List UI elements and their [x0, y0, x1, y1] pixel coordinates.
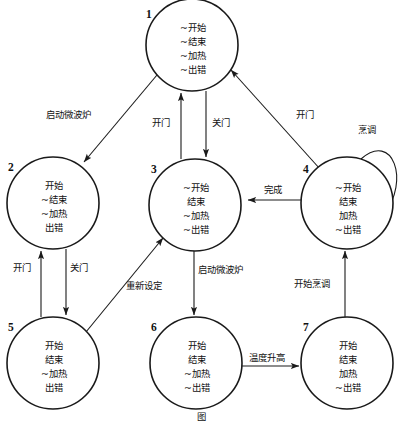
state-6-attr-2: ~加热 — [184, 368, 211, 379]
state-5-attr-0: 开始 — [45, 340, 64, 351]
edge-label-3-to-6: 启动微波炉 — [198, 264, 243, 275]
state-5-attr-3: 出错 — [45, 382, 63, 393]
state-id-7: 7 — [303, 321, 309, 333]
state-id-6: 6 — [151, 321, 157, 333]
edge-label-4-to-1: 开门 — [296, 109, 314, 120]
state-id-4: 4 — [303, 163, 309, 175]
state-diagram-container: 1 2 3 4 5 6 7 ~开始 ~结束 ~加热 ~出错 开始 ~结束 ~加热… — [0, 0, 403, 422]
edge-label-6-to-7: 温度升高 — [249, 352, 285, 363]
state-diagram-canvas: 1 2 3 4 5 6 7 ~开始 ~结束 ~加热 ~出错 开始 ~结束 ~加热… — [0, 0, 403, 422]
state-4-attr-3: ~出错 — [335, 224, 361, 235]
state-1-attr-1: ~结束 — [180, 36, 207, 47]
edge-label-5-to-3: 重新设定 — [126, 280, 162, 291]
edge-label-5-to-2: 开门 — [13, 262, 31, 273]
state-5-attr-2: ~加热 — [41, 368, 68, 379]
state-3-attr-3: ~出错 — [183, 224, 209, 235]
edge-label-1-to-3: 关门 — [212, 117, 230, 128]
edge-label-4-self-loop: 烹调 — [358, 124, 376, 135]
state-7-attr-0: 开始 — [339, 340, 358, 351]
state-6-attr-3: ~出错 — [184, 382, 210, 393]
state-2-attr-3: 出错 — [45, 222, 63, 233]
edge-label-3-to-1: 开门 — [152, 117, 170, 128]
edge-label-7-to-4: 开始烹调 — [294, 278, 330, 289]
state-4-attr-1: 结束 — [339, 196, 358, 207]
state-7-attr-2: 加热 — [339, 368, 358, 379]
state-3-attr-2: ~加热 — [183, 210, 210, 221]
state-4-attr-2: 加热 — [339, 210, 358, 221]
state-7-attr-1: 结束 — [339, 354, 358, 365]
state-id-3: 3 — [151, 163, 157, 175]
state-3-attr-1: 结束 — [187, 196, 206, 207]
edge-label-2-to-5: 关门 — [70, 262, 88, 273]
edge-1-to-2 — [84, 75, 157, 162]
state-5-attr-1: 结束 — [45, 354, 64, 365]
state-1-attr-2: ~加热 — [180, 50, 207, 61]
state-2-attr-1: ~结束 — [41, 194, 68, 205]
state-2-attr-2: ~加热 — [41, 208, 68, 219]
edge-label-1-to-2: 启动微波炉 — [46, 109, 91, 120]
state-7-attr-3: ~出错 — [335, 382, 361, 393]
state-id-1: 1 — [146, 8, 152, 20]
edge-label-4-to-3: 完成 — [264, 184, 282, 195]
state-id-2: 2 — [8, 161, 14, 173]
state-1-attr-0: ~开始 — [180, 22, 207, 33]
state-1-attr-3: ~出错 — [180, 64, 206, 75]
state-3-attr-0: ~开始 — [183, 182, 210, 193]
state-4-attr-0: ~开始 — [335, 182, 362, 193]
state-6-attr-1: 结束 — [188, 354, 207, 365]
state-6-attr-0: 开始 — [188, 340, 207, 351]
state-2-attr-0: 开始 — [45, 180, 64, 191]
state-id-5: 5 — [8, 321, 14, 333]
figure-caption: 图 — [197, 411, 206, 422]
